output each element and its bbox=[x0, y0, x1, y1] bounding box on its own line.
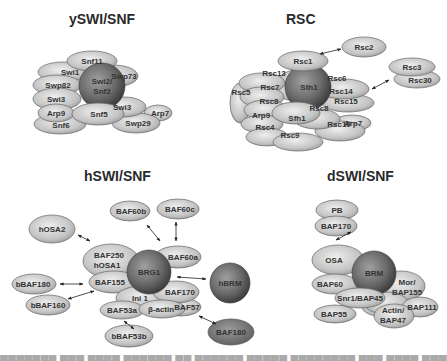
svg-text:Arp9: Arp9 bbox=[47, 109, 66, 118]
svg-text:Mor/: Mor/ bbox=[399, 278, 417, 287]
svg-text:Rsc8: Rsc8 bbox=[259, 97, 279, 106]
svg-text:Rsc30: Rsc30 bbox=[408, 76, 432, 85]
svg-text:Snf5: Snf5 bbox=[90, 110, 108, 119]
svg-text:Rsc4: Rsc4 bbox=[255, 123, 275, 132]
svg-text:Rsc15: Rsc15 bbox=[334, 97, 358, 106]
svg-text:Snf11: Snf11 bbox=[81, 57, 103, 66]
diagram-canvas: ySWI/SNF RSC hSWI/SNF dSWI/SNF bbox=[0, 0, 447, 361]
svg-text:Rsc2: Rsc2 bbox=[354, 43, 374, 52]
svg-text:hOSA2: hOSA2 bbox=[39, 225, 66, 234]
rsc-complex: Rsc1 Rsc2 Rsc13 Rsc7 Rsc5 Rsc8 Sth1 Rsc6… bbox=[230, 37, 440, 151]
svg-text:Rsc6: Rsc6 bbox=[327, 74, 347, 83]
svg-text:Rsc5: Rsc5 bbox=[231, 88, 251, 97]
svg-text:BAF180: BAF180 bbox=[216, 328, 246, 337]
yswi-snf-complex: Snf11 Swi1 Swp73 Swp82 Swi2/ Snf2 Swi3 A… bbox=[33, 51, 172, 134]
dswi-snf-complex: PB BAP170 OSA BRM BAP60 Mor/ BAP155 Snr1… bbox=[312, 200, 438, 328]
svg-text:BAP55: BAP55 bbox=[321, 310, 347, 319]
svg-text:hOSA1: hOSA1 bbox=[94, 261, 121, 270]
svg-text:Swp82: Swp82 bbox=[45, 81, 71, 90]
svg-text:BAP111: BAP111 bbox=[407, 303, 437, 312]
svg-text:BRG1: BRG1 bbox=[138, 268, 161, 277]
svg-text:bBAF180: bBAF180 bbox=[16, 280, 51, 289]
svg-text:Snf2: Snf2 bbox=[93, 87, 111, 96]
svg-text:β-actin: β-actin bbox=[148, 305, 174, 314]
svg-text:Arp9: Arp9 bbox=[252, 111, 271, 120]
svg-text:Rsc14: Rsc14 bbox=[329, 87, 353, 96]
svg-text:BAP155: BAP155 bbox=[392, 288, 423, 297]
svg-text:BAF155: BAF155 bbox=[95, 278, 125, 287]
svg-text:Snr1/BAP45: Snr1/BAP45 bbox=[337, 294, 383, 303]
svg-text:OSA: OSA bbox=[325, 256, 343, 265]
svg-text:BAF170: BAF170 bbox=[165, 288, 195, 297]
svg-text:BAF60b: BAF60b bbox=[116, 207, 146, 216]
svg-text:Sfh1: Sfh1 bbox=[288, 114, 306, 123]
svg-text:PB: PB bbox=[331, 206, 342, 215]
figure-caption-clipped: ▀▀▀▀▀▀▀ ▀▀▀ ▀▀▀▀ ▀▀▀▀▀▀ ▀▀ ▀▀▀▀▀▀ ▀▀▀▀▀ … bbox=[0, 354, 447, 361]
svg-text:Sth1: Sth1 bbox=[300, 83, 318, 92]
svg-text:BAP47: BAP47 bbox=[380, 316, 406, 325]
svg-text:Rsc9: Rsc9 bbox=[280, 131, 300, 140]
svg-text:hBRM: hBRM bbox=[218, 279, 241, 288]
svg-text:Swp73: Swp73 bbox=[111, 72, 137, 81]
hswi-snf-complex: hOSA2 BAF60b BAF60c BAF250 hOSA1 BAF60a … bbox=[12, 199, 254, 347]
svg-text:Swp29: Swp29 bbox=[125, 119, 151, 128]
svg-text:Rsc13: Rsc13 bbox=[262, 69, 286, 78]
complex-diagram: Snf11 Swi1 Swp73 Swp82 Swi2/ Snf2 Swi3 A… bbox=[0, 0, 447, 361]
svg-text:Rsc3: Rsc3 bbox=[402, 63, 422, 72]
svg-text:BRM: BRM bbox=[365, 269, 384, 278]
svg-text:Swi2/: Swi2/ bbox=[92, 77, 113, 86]
svg-text:BAF57: BAF57 bbox=[174, 303, 200, 312]
svg-text:BAP60: BAP60 bbox=[317, 280, 343, 289]
svg-text:Arp7: Arp7 bbox=[151, 109, 170, 118]
svg-text:BAF53a: BAF53a bbox=[107, 306, 137, 315]
svg-text:Ini 1: Ini 1 bbox=[132, 294, 149, 303]
svg-text:Rsc1: Rsc1 bbox=[293, 57, 313, 66]
svg-text:BAF250: BAF250 bbox=[94, 251, 124, 260]
svg-text:Rsc7: Rsc7 bbox=[260, 83, 280, 92]
svg-text:bBAF53b: bBAF53b bbox=[111, 332, 146, 341]
svg-text:Swi3: Swi3 bbox=[113, 103, 132, 112]
svg-text:BAF60a: BAF60a bbox=[168, 253, 198, 262]
svg-text:BAF60c: BAF60c bbox=[165, 205, 195, 214]
svg-text:Swi3: Swi3 bbox=[47, 95, 66, 104]
svg-text:Actin/: Actin/ bbox=[382, 306, 405, 315]
svg-text:Rsc8: Rsc8 bbox=[309, 104, 329, 113]
svg-text:Swi1: Swi1 bbox=[61, 68, 80, 77]
svg-text:Rsc10: Rsc10 bbox=[327, 120, 351, 129]
svg-text:bBAF160: bBAF160 bbox=[31, 301, 66, 310]
svg-text:BAP170: BAP170 bbox=[321, 222, 352, 231]
svg-text:Snf6: Snf6 bbox=[52, 121, 70, 130]
